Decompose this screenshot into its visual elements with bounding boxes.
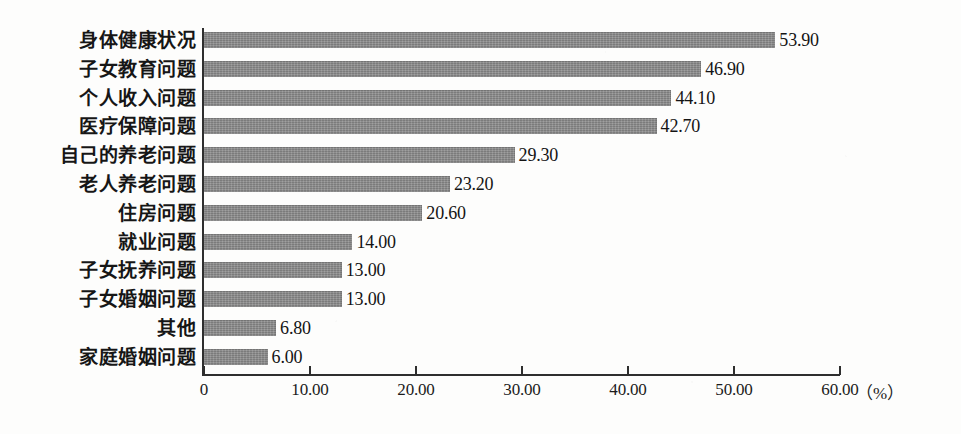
x-axis-tick-label: 10.00	[291, 380, 328, 400]
category-label: 身体健康状况	[79, 31, 196, 50]
category-label: 子女抚养问题	[79, 261, 196, 280]
category-label: 住房问题	[118, 203, 196, 222]
category-label: 医疗保障问题	[79, 117, 196, 136]
x-axis-tick-label: 20.00	[397, 380, 434, 400]
bar-value-label: 53.90	[779, 31, 819, 49]
bar-value-label: 13.00	[346, 261, 386, 279]
bar	[204, 234, 352, 250]
bar-row: 就业问题14.00	[0, 228, 961, 256]
bar	[204, 118, 657, 134]
bar-value-label: 20.60	[426, 204, 466, 222]
category-label: 其他	[157, 319, 196, 338]
bar	[204, 90, 671, 106]
bar-row: 自己的养老问题29.30	[0, 141, 961, 169]
bar-row: 家庭婚姻问题6.00	[0, 343, 961, 371]
bar-row: 个人收入问题44.10	[0, 84, 961, 112]
bar-value-label: 6.00	[272, 348, 303, 366]
bar-chart-plot-area: 010.0020.0030.0040.0050.0060.00 身体健康状况53…	[0, 0, 961, 434]
bar	[204, 262, 342, 278]
bar-value-label: 13.00	[346, 290, 386, 308]
x-axis-tick-label: 60.00	[821, 380, 858, 400]
bar	[204, 32, 775, 48]
bar	[204, 291, 342, 307]
x-axis-tick-label: 0	[200, 380, 208, 400]
bar	[204, 176, 450, 192]
bar-value-label: 6.80	[280, 319, 311, 337]
bar	[204, 320, 276, 336]
bar-row: 身体健康状况53.90	[0, 26, 961, 54]
bar-value-label: 23.20	[454, 175, 494, 193]
category-label: 就业问题	[118, 232, 196, 251]
bar	[204, 205, 422, 221]
bar	[204, 147, 515, 163]
bar-row: 医疗保障问题42.70	[0, 112, 961, 140]
x-axis-tick-label: 30.00	[503, 380, 540, 400]
x-axis-tick-label: 50.00	[715, 380, 752, 400]
category-label: 子女婚姻问题	[79, 290, 196, 309]
bar-value-label: 46.90	[705, 60, 745, 78]
bar-row: 子女抚养问题13.00	[0, 256, 961, 284]
category-label: 自己的养老问题	[60, 146, 197, 165]
bar	[204, 61, 701, 77]
category-label: 个人收入问题	[79, 88, 196, 107]
bar-value-label: 42.70	[661, 117, 701, 135]
bar-value-label: 44.10	[675, 89, 715, 107]
bar-value-label: 29.30	[519, 146, 559, 164]
chart-page: 010.0020.0030.0040.0050.0060.00 身体健康状况53…	[0, 0, 961, 434]
x-axis-tick-label: 40.00	[609, 380, 646, 400]
category-label: 家庭婚姻问题	[79, 347, 196, 366]
bar-row: 其他6.80	[0, 314, 961, 342]
bar-row: 子女教育问题46.90	[0, 55, 961, 83]
x-axis-unit-label: （%）	[856, 379, 904, 404]
bar-row: 老人养老问题23.20	[0, 170, 961, 198]
bar-row: 子女婚姻问题13.00	[0, 285, 961, 313]
category-label: 子女教育问题	[79, 59, 196, 78]
bar-value-label: 14.00	[356, 233, 396, 251]
bar-row: 住房问题20.60	[0, 199, 961, 227]
bar	[204, 349, 268, 365]
category-label: 老人养老问题	[79, 175, 196, 194]
